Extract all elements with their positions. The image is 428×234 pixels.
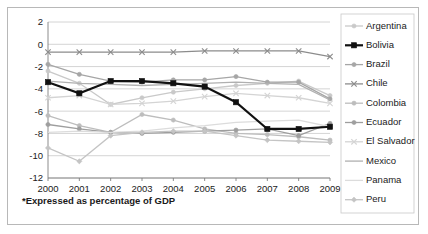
- data-point-marker: [46, 62, 50, 66]
- series-line: [48, 81, 330, 129]
- y-axis-tick-label: -2: [35, 61, 43, 72]
- legend-item-label: Argentina: [366, 20, 407, 31]
- data-point-marker: [296, 139, 301, 144]
- data-point-marker: [202, 84, 207, 89]
- data-point-marker: [140, 112, 144, 116]
- x-axis-labels: 2000200120022003200420052006200720082009: [37, 183, 340, 194]
- data-point-marker: [45, 80, 50, 85]
- data-point-marker: [327, 124, 332, 129]
- data-point-marker: [139, 78, 144, 83]
- data-point-marker: [140, 96, 144, 100]
- chart-legend: ArgentinaBoliviaBrazilChileColombiaEcuad…: [341, 14, 415, 213]
- series-argentina: [46, 69, 332, 107]
- data-point-marker: [234, 128, 238, 132]
- y-axis-tick-label: -10: [29, 150, 43, 161]
- data-point-marker: [234, 75, 238, 79]
- data-point-marker: [46, 69, 50, 73]
- data-point-marker: [352, 101, 356, 105]
- data-point-marker: [45, 145, 50, 150]
- data-point-marker: [171, 90, 175, 94]
- data-point-marker: [46, 122, 50, 126]
- line-chart: 20-2-4-6-8-10-12200020012002200320042005…: [8, 8, 420, 226]
- x-axis-tick-label: 2006: [225, 183, 246, 194]
- legend-item-label: Bolivia: [366, 39, 395, 50]
- data-point-marker: [352, 24, 356, 28]
- legend-item-mexico[interactable]: Mexico: [345, 155, 396, 166]
- data-point-marker: [265, 126, 270, 131]
- data-point-marker: [234, 83, 238, 87]
- x-axis-tick-label: 2003: [131, 183, 152, 194]
- x-axis-tick-label: 2005: [194, 183, 215, 194]
- legend-item-ecuador[interactable]: Ecuador: [345, 116, 401, 127]
- x-axis-tick-label: 2009: [319, 183, 340, 194]
- legend-item-label: El Salvador: [366, 135, 415, 146]
- data-point-marker: [171, 81, 176, 86]
- data-point-marker: [352, 63, 356, 67]
- data-point-marker: [351, 43, 356, 48]
- x-axis-tick-label: 2007: [257, 183, 278, 194]
- legend-item-label: Panama: [366, 174, 402, 185]
- data-point-marker: [77, 127, 81, 131]
- chart-footnote: *Expressed as percentage of GDP: [22, 195, 176, 206]
- data-point-marker: [297, 80, 301, 84]
- legend-item-el-salvador[interactable]: El Salvador: [345, 135, 415, 146]
- data-point-marker: [77, 72, 81, 76]
- data-point-marker: [297, 134, 301, 138]
- series-el-salvador: [45, 91, 332, 108]
- data-point-marker: [203, 78, 207, 82]
- data-point-marker: [296, 126, 301, 131]
- data-point-marker: [108, 78, 113, 83]
- data-point-marker: [77, 91, 82, 96]
- chart-frame: 20-2-4-6-8-10-12200020012002200320042005…: [7, 7, 419, 225]
- data-point-marker: [46, 114, 50, 118]
- data-point-marker: [171, 118, 175, 122]
- y-axis-tick-label: -6: [35, 106, 43, 117]
- y-axis-tick-label: -8: [35, 128, 43, 139]
- series-bolivia: [45, 78, 332, 131]
- data-point-marker: [233, 100, 238, 105]
- legend-item-colombia[interactable]: Colombia: [345, 97, 407, 108]
- series-chile: [45, 48, 332, 59]
- legend-item-label: Brazil: [366, 58, 390, 69]
- x-axis-tick-label: 2002: [100, 183, 121, 194]
- y-axis-tick-label: -4: [35, 83, 43, 94]
- legend-item-bolivia[interactable]: Bolivia: [345, 39, 395, 50]
- y-axis-tick-label: 2: [38, 16, 43, 27]
- legend-item-label: Peru: [366, 193, 386, 204]
- legend-item-label: Chile: [366, 77, 388, 88]
- series-line: [48, 64, 330, 99]
- data-point-marker: [265, 132, 269, 136]
- legend-item-chile[interactable]: Chile: [345, 77, 388, 88]
- data-point-marker: [351, 197, 356, 202]
- x-axis-tick-label: 2004: [163, 183, 184, 194]
- legend-item-argentina[interactable]: Argentina: [345, 20, 407, 31]
- x-axis-tick-label: 2000: [37, 183, 58, 194]
- y-axis-tick-label: -12: [29, 172, 43, 183]
- legend-item-peru[interactable]: Peru: [345, 193, 386, 204]
- legend-item-label: Mexico: [366, 155, 396, 166]
- data-point-marker: [265, 138, 270, 143]
- legend-item-brazil[interactable]: Brazil: [345, 58, 390, 69]
- legend-item-panama[interactable]: Panama: [345, 174, 402, 185]
- y-axis-tick-label: 0: [38, 39, 43, 50]
- legend-item-label: Ecuador: [366, 116, 401, 127]
- x-axis-tick-label: 2001: [69, 183, 90, 194]
- axes: [48, 22, 330, 181]
- x-axis-tick-label: 2008: [288, 183, 309, 194]
- legend-item-label: Colombia: [366, 97, 407, 108]
- series-brazil: [46, 62, 332, 101]
- chart-plot-wrapper: 20-2-4-6-8-10-12200020012002200320042005…: [8, 8, 420, 226]
- series-line: [48, 93, 330, 104]
- data-point-marker: [352, 120, 356, 124]
- series-line: [48, 51, 330, 57]
